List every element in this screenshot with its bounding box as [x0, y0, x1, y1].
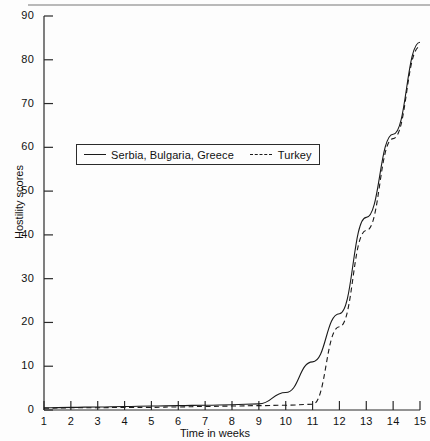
legend-item-turkey: Turkey — [250, 149, 312, 161]
y-axis-ticks — [44, 16, 53, 410]
plot-area — [0, 0, 430, 441]
axis-lines — [44, 16, 420, 410]
series-line-turkey — [44, 47, 420, 409]
x-axis-title: Time in weeks — [0, 427, 430, 439]
legend-item-serbia-bulgaria-greece: Serbia, Bulgaria, Greece — [84, 149, 234, 161]
solid-line-swatch-icon — [84, 154, 106, 155]
x-axis-ticks — [44, 401, 420, 410]
chart-legend: Serbia, Bulgaria, Greece Turkey — [76, 144, 320, 165]
legend-label: Serbia, Bulgaria, Greece — [111, 149, 234, 161]
legend-label: Turkey — [278, 149, 312, 161]
hostility-scores-chart: Hostility scores 0102030405060708090 123… — [0, 0, 430, 441]
series-line-serbia-bulgaria-greece — [44, 42, 420, 408]
dashed-line-swatch-icon — [250, 154, 272, 155]
